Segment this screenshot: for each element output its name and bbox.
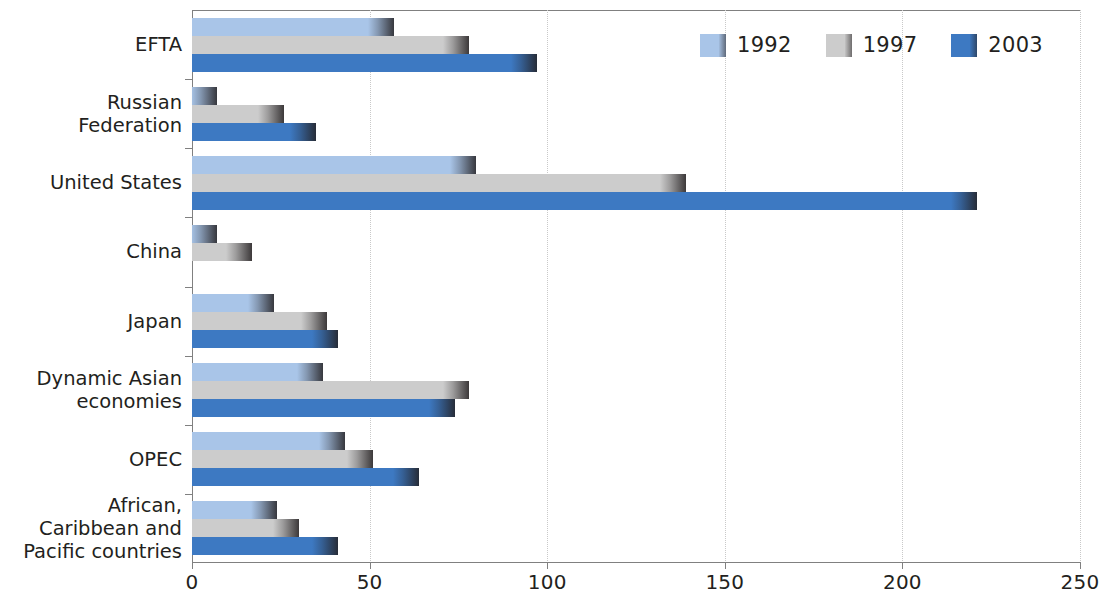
bar-1997 xyxy=(192,105,284,123)
bar-fill xyxy=(192,537,338,555)
bar-fill xyxy=(192,294,274,312)
gridline xyxy=(547,10,548,563)
x-axis-tick-label: 100 xyxy=(528,570,567,593)
bar-fill xyxy=(192,312,327,330)
category-label: Japan xyxy=(2,310,182,333)
bar-fill xyxy=(192,519,299,537)
legend-label: 1992 xyxy=(737,33,792,57)
category-label: OPEC xyxy=(2,448,182,471)
x-axis-tick-label: 150 xyxy=(705,570,744,593)
bar-fill xyxy=(192,450,373,468)
x-axis-tick xyxy=(902,562,903,569)
y-axis-tick xyxy=(185,79,193,80)
legend-item-1992[interactable]: 1992 xyxy=(700,33,792,57)
y-axis-tick xyxy=(185,494,193,495)
bar-1992 xyxy=(192,432,345,450)
legend-swatch-icon xyxy=(951,34,977,57)
category-label: EFTA xyxy=(2,33,182,56)
bar-1997 xyxy=(192,243,252,261)
x-axis-tick-label: 200 xyxy=(883,570,922,593)
bar-1992 xyxy=(192,156,476,174)
bar-fill xyxy=(192,243,252,261)
bar-fill xyxy=(192,87,217,105)
y-axis-tick xyxy=(185,148,193,149)
bar-1992 xyxy=(192,87,217,105)
bar-1992 xyxy=(192,501,277,519)
x-axis-tick-label: 50 xyxy=(357,570,383,593)
bar-chart: EFTARussian FederationUnited StatesChina… xyxy=(0,0,1105,593)
bar-fill xyxy=(192,105,284,123)
bar-2003 xyxy=(192,468,419,486)
bar-fill xyxy=(192,36,469,54)
bar-2003 xyxy=(192,399,455,417)
plot-top-border xyxy=(192,10,1080,11)
bar-2003 xyxy=(192,537,338,555)
bar-2003 xyxy=(192,123,316,141)
bar-1997 xyxy=(192,174,686,192)
x-axis-tick-label: 250 xyxy=(1061,570,1100,593)
y-axis-tick xyxy=(185,287,193,288)
legend-item-2003[interactable]: 2003 xyxy=(951,33,1043,57)
gridline xyxy=(1080,10,1081,563)
x-axis-tick xyxy=(1080,562,1081,569)
x-axis-tick-label: 0 xyxy=(186,570,199,593)
bar-1997 xyxy=(192,450,373,468)
category-label: Russian Federation xyxy=(2,91,182,137)
x-axis-tick xyxy=(192,562,193,569)
chart-legend: 199219972003 xyxy=(700,33,1043,57)
x-axis-tick xyxy=(547,562,548,569)
bar-fill xyxy=(192,54,537,72)
x-axis-line xyxy=(192,562,1080,563)
category-axis-labels: EFTARussian FederationUnited StatesChina… xyxy=(0,0,182,593)
bar-fill xyxy=(192,501,277,519)
legend-swatch-icon xyxy=(826,34,852,57)
bar-fill xyxy=(192,123,316,141)
bar-fill xyxy=(192,468,419,486)
legend-swatch-icon xyxy=(700,34,726,57)
category-label: United States xyxy=(2,171,182,194)
bar-fill xyxy=(192,156,476,174)
bar-2003 xyxy=(192,54,537,72)
bar-1992 xyxy=(192,225,217,243)
legend-label: 2003 xyxy=(988,33,1043,57)
bar-fill xyxy=(192,18,394,36)
bar-1992 xyxy=(192,363,323,381)
bar-1992 xyxy=(192,18,394,36)
bar-1997 xyxy=(192,519,299,537)
y-axis-tick xyxy=(185,356,193,357)
category-label: China xyxy=(2,240,182,263)
bar-2003 xyxy=(192,330,338,348)
bar-fill xyxy=(192,192,977,210)
y-axis-tick xyxy=(185,217,193,218)
bar-1997 xyxy=(192,312,327,330)
category-label: Dynamic Asian economies xyxy=(2,367,182,413)
bar-fill xyxy=(192,363,323,381)
gridline xyxy=(902,10,903,563)
bar-fill xyxy=(192,225,217,243)
bar-1997 xyxy=(192,36,469,54)
bar-fill xyxy=(192,174,686,192)
gridline xyxy=(725,10,726,563)
x-axis-tick xyxy=(725,562,726,569)
bar-fill xyxy=(192,330,338,348)
bar-fill xyxy=(192,399,455,417)
bar-fill xyxy=(192,432,345,450)
y-axis-tick xyxy=(185,425,193,426)
bar-1997 xyxy=(192,381,469,399)
category-label: African, Caribbean and Pacific countries xyxy=(2,494,182,563)
legend-item-1997[interactable]: 1997 xyxy=(826,33,918,57)
bar-2003 xyxy=(192,192,977,210)
bar-1992 xyxy=(192,294,274,312)
x-axis-tick xyxy=(370,562,371,569)
legend-label: 1997 xyxy=(863,33,918,57)
bar-fill xyxy=(192,381,469,399)
